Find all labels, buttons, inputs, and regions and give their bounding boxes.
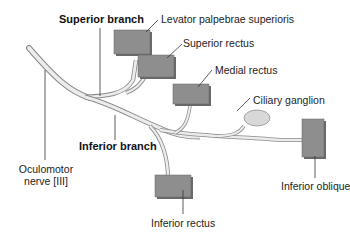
label-oculomotor-line2: nerve [III] bbox=[18, 175, 74, 187]
label-oculomotor-nerve: Oculomotor nerve [III] bbox=[18, 163, 74, 187]
inferior-oblique-muscle bbox=[302, 119, 326, 159]
label-inferior-branch: Inferior branch bbox=[79, 140, 157, 152]
label-inferior-oblique: Inferior oblique bbox=[281, 180, 350, 192]
label-medial-rectus: Medial rectus bbox=[215, 64, 277, 76]
label-superior-rectus: Superior rectus bbox=[183, 37, 254, 49]
levator-muscle bbox=[114, 30, 152, 56]
oculomotor-nerve-trunk bbox=[29, 48, 90, 98]
label-oculomotor-line1: Oculomotor bbox=[18, 163, 74, 175]
superior-branch-nerve bbox=[85, 60, 146, 97]
label-levator-palpebrae-superioris: Levator palpebrae superioris bbox=[161, 13, 294, 25]
label-inferior-rectus: Inferior rectus bbox=[151, 217, 215, 229]
label-ciliary-ganglion: Ciliary ganglion bbox=[253, 94, 325, 106]
superior-rectus-muscle bbox=[138, 55, 176, 79]
ciliary-ganglion bbox=[244, 110, 270, 126]
inferior-rectus-muscle bbox=[155, 175, 193, 199]
medial-rectus-muscle bbox=[173, 84, 211, 106]
label-superior-branch: Superior branch bbox=[59, 13, 144, 25]
inferior-branch-nerve bbox=[85, 97, 302, 178]
